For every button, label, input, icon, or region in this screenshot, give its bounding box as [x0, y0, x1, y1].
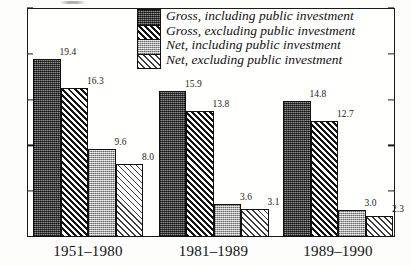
legend-label-net-excl: Net, excluding public investment: [166, 53, 355, 68]
legend-swatch-gross-excl: [138, 25, 160, 40]
bar-value-label: 14.8: [310, 90, 327, 100]
legend-swatch-net-excl: [138, 54, 160, 69]
bar-gross-excl-0: [61, 88, 89, 237]
chart-root: 0510152025 19.416.39.68.015.913.83.63.11…: [0, 0, 411, 266]
y-axis-tick-mark-right: [388, 191, 394, 192]
x-axis-label-1: 1981–1989: [179, 243, 248, 260]
bar-net-excl-1: [241, 209, 269, 237]
legend-label-net-incl: Net, including public investment: [166, 38, 355, 53]
bar-value-label: 9.6: [115, 138, 127, 148]
y-axis-tick-mark-right: [388, 53, 394, 54]
bar-gross-incl-0: [33, 59, 61, 237]
bar-value-label: 3.0: [365, 199, 377, 209]
bar-value-label: 8.0: [142, 153, 154, 163]
bar-net-incl-1: [214, 204, 242, 237]
bar-net-incl-0: [88, 149, 116, 237]
legend-label-gross-incl: Gross, including public investment: [166, 9, 355, 24]
y-axis-tick-mark-right: [388, 145, 394, 146]
legend-labels: Gross, including public investmentGross,…: [166, 9, 355, 69]
legend-swatch-gross-incl: [138, 10, 160, 25]
bar-gross-incl-1: [159, 91, 187, 237]
bar-gross-excl-2: [311, 121, 339, 237]
y-axis-tick-mark-right: [388, 7, 394, 8]
bar-value-label: 2.3: [392, 205, 404, 215]
legend-swatches: [137, 9, 161, 69]
x-axis-label-2: 1989–1990: [303, 243, 372, 260]
y-axis-tick-mark-left: [27, 53, 33, 54]
bar-value-label: 12.7: [337, 110, 354, 120]
bar-value-label: 15.9: [185, 80, 202, 90]
bar-net-excl-0: [116, 164, 144, 237]
x-axis-label-0: 1951–1980: [53, 243, 122, 260]
y-axis-tick-mark-right: [388, 99, 394, 100]
bar-value-label: 16.3: [87, 77, 104, 87]
legend-swatch-net-incl: [138, 39, 160, 54]
legend: Gross, including public investmentGross,…: [137, 9, 355, 69]
scan-artifact: [60, 1, 86, 4]
bar-net-excl-2: [366, 216, 394, 237]
bar-value-label: 3.1: [268, 198, 280, 208]
bar-net-incl-2: [338, 210, 366, 237]
bar-value-label: 19.4: [60, 48, 77, 58]
bar-gross-excl-1: [186, 111, 214, 237]
y-axis-tick-mark-left: [27, 7, 33, 8]
bar-value-label: 13.8: [213, 100, 230, 110]
legend-label-gross-excl: Gross, excluding public investment: [166, 24, 355, 39]
bar-gross-incl-2: [283, 101, 311, 237]
bar-value-label: 3.6: [240, 193, 252, 203]
